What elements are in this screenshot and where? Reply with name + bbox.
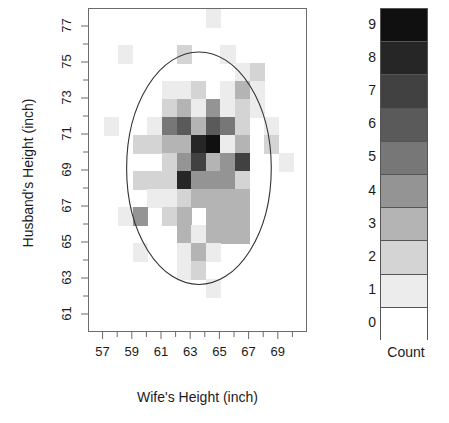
colorbar-tick-label: 2 bbox=[356, 248, 376, 264]
y-tick-label: 75 bbox=[59, 49, 74, 75]
x-tick-label: 65 bbox=[206, 344, 232, 359]
y-tick-label: 69 bbox=[59, 157, 74, 183]
colorbar bbox=[380, 8, 428, 340]
colorbar-tick-label: 3 bbox=[356, 215, 376, 231]
x-tick-label: 61 bbox=[148, 344, 174, 359]
y-tick-label: 77 bbox=[59, 13, 74, 39]
colorbar-tick-label: 4 bbox=[356, 182, 376, 198]
chart-root: 616365676971737577 57596163656769 Wife's… bbox=[0, 0, 449, 423]
colorbar-band bbox=[381, 75, 427, 108]
x-tick-label: 57 bbox=[90, 344, 116, 359]
x-tick-label: 67 bbox=[236, 344, 262, 359]
colorbar-tick-label: 9 bbox=[356, 16, 376, 32]
y-tick-label: 63 bbox=[59, 265, 74, 291]
y-axis-title: Husband's Height (inch) bbox=[20, 63, 36, 283]
y-tick-label: 61 bbox=[59, 301, 74, 327]
colorbar-band bbox=[381, 241, 427, 274]
legend-title: Count bbox=[374, 344, 438, 360]
colorbar-band bbox=[381, 9, 427, 42]
colorbar-band bbox=[381, 308, 427, 341]
confidence-ellipse bbox=[127, 52, 272, 285]
x-tick-label: 59 bbox=[119, 344, 145, 359]
colorbar-tick-label: 8 bbox=[356, 49, 376, 65]
y-tick-label: 67 bbox=[59, 193, 74, 219]
y-tick-label: 65 bbox=[59, 229, 74, 255]
colorbar-band bbox=[381, 175, 427, 208]
colorbar-tick-label: 6 bbox=[356, 115, 376, 131]
x-tick-label: 63 bbox=[177, 344, 203, 359]
colorbar-band bbox=[381, 208, 427, 241]
plot-area bbox=[88, 8, 307, 332]
y-tick-label: 73 bbox=[59, 85, 74, 111]
x-tick-label: 69 bbox=[265, 344, 291, 359]
colorbar-tick-label: 5 bbox=[356, 148, 376, 164]
colorbar-band bbox=[381, 42, 427, 75]
colorbar-tick-label: 7 bbox=[356, 82, 376, 98]
colorbar-band bbox=[381, 275, 427, 308]
x-axis-title: Wife's Height (inch) bbox=[0, 389, 395, 405]
colorbar-tick-label: 0 bbox=[356, 314, 376, 330]
y-tick-label: 71 bbox=[59, 121, 74, 147]
ellipse-overlay bbox=[89, 9, 306, 331]
colorbar-band bbox=[381, 142, 427, 175]
colorbar-tick-label: 1 bbox=[356, 281, 376, 297]
legend: 9876543210 Count bbox=[338, 8, 442, 368]
colorbar-band bbox=[381, 109, 427, 142]
